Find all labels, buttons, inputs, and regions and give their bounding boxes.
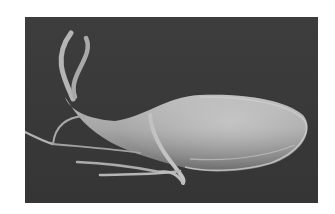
organism-illustration xyxy=(25,17,318,203)
micrograph-frame xyxy=(25,17,318,203)
